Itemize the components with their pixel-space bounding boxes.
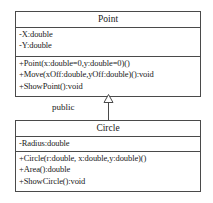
operation-row: +Point(x:double=0,y:double=0)() bbox=[19, 58, 200, 69]
attribute-row: -Y:double bbox=[19, 40, 200, 51]
uml-class-point[interactable]: Point -X:double -Y:double +Point(x:doubl… bbox=[15, 11, 201, 97]
uml-class-circle[interactable]: Circle -Radius:double +Circle(r:double, … bbox=[15, 120, 201, 192]
attribute-row: -X:double bbox=[19, 29, 200, 40]
class-name-point: Point bbox=[16, 12, 200, 28]
uml-class-diagram-canvas: Point -X:double -Y:double +Point(x:doubl… bbox=[0, 0, 213, 203]
attributes-compartment-point: -X:double -Y:double bbox=[16, 28, 200, 57]
operation-row: +Move(xOff:double,yOff:double)():void bbox=[19, 69, 200, 80]
operation-row: +Circle(r:double, x:double,y:double)() bbox=[19, 153, 200, 164]
operations-compartment-point: +Point(x:double=0,y:double=0)() +Move(xO… bbox=[16, 57, 200, 96]
operations-compartment-circle: +Circle(r:double, x:double,y:double)() +… bbox=[16, 152, 200, 191]
attribute-row: -Radius:double bbox=[19, 138, 200, 149]
operation-row: +ShowCircle():void bbox=[19, 176, 200, 187]
operation-row: +Area():double bbox=[19, 164, 200, 175]
relationship-label-public: public bbox=[52, 101, 75, 113]
class-name-circle: Circle bbox=[16, 121, 200, 137]
attributes-compartment-circle: -Radius:double bbox=[16, 137, 200, 152]
operation-row: +ShowPoint():void bbox=[19, 81, 200, 92]
